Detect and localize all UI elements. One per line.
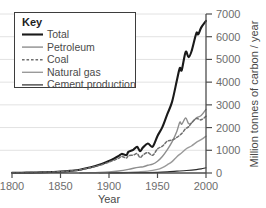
x-tick-label: 1900: [97, 180, 121, 192]
legend-label-natural-gas: Natural gas: [47, 66, 101, 78]
legend-title: Key: [22, 16, 43, 28]
line-chart: 18001850190019502000 0100020003000400050…: [0, 0, 266, 208]
legend-label-cement-production: Cement production: [47, 78, 136, 90]
y-tick-label: 5000: [216, 53, 240, 65]
legend-label-petroleum: Petroleum: [47, 41, 95, 53]
legend-label-total: Total: [47, 28, 69, 40]
legend-label-coal: Coal: [47, 53, 69, 65]
x-tick-label: 1800: [0, 180, 24, 192]
y-tick-label: 3000: [216, 99, 240, 111]
y-tick-label: 0: [216, 167, 222, 179]
y-tick-label: 4000: [216, 76, 240, 88]
x-axis-title: Year: [98, 193, 121, 205]
y-tick-label: 2000: [216, 122, 240, 134]
x-tick-label: 2000: [194, 180, 218, 192]
chart-container: 18001850190019502000 0100020003000400050…: [0, 0, 266, 208]
y-tick-label: 6000: [216, 31, 240, 43]
legend: Key TotalPetroleumCoalNatural gasCement …: [15, 13, 136, 91]
y-tick-label: 7000: [216, 8, 240, 20]
y-axis-title: Million tonnes of carbon / year: [248, 20, 260, 167]
y-tick-label: 1000: [216, 144, 240, 156]
x-tick-label: 1950: [145, 180, 169, 192]
x-tick-label: 1850: [48, 180, 72, 192]
